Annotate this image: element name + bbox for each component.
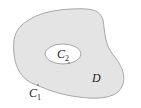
label-region-d: D [91,71,101,85]
region-diagram: C2 D C1 [0,0,141,108]
c1-marker [37,84,39,86]
label-c1: C1 [29,86,41,102]
